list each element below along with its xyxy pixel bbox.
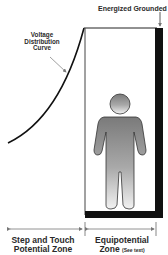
energized-object-label: Energized Grounded Object <box>98 5 168 12</box>
step-touch-zone-label: Step and Touch Potential Zone <box>2 236 84 254</box>
equipotential-line2: Zone <box>99 244 119 254</box>
curve-label-line3: Curve <box>20 45 64 52</box>
voltage-curve-label: Voltage Distribution Curve <box>20 32 64 52</box>
see-text-note: (See text) <box>122 247 145 253</box>
equipotential-line1: Equipotential <box>86 236 158 245</box>
ground-floor <box>85 211 163 218</box>
curve-pointer-arrow <box>50 57 66 72</box>
person-figure <box>94 94 146 209</box>
step-touch-line2: Potential Zone <box>2 245 84 254</box>
energized-object <box>155 28 163 218</box>
equipotential-zone-label: Equipotential Zone (See text) <box>86 236 158 254</box>
